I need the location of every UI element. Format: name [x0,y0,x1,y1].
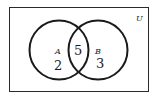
universe-label: U [136,14,143,23]
set-a-label: A [54,47,61,56]
intersection-count: 5 [74,43,82,58]
set-b-label: B [94,47,101,56]
venn-diagram: U A B 5 2 3 [0,0,158,96]
b-only-count: 3 [96,56,104,71]
a-only-count: 2 [54,58,62,73]
